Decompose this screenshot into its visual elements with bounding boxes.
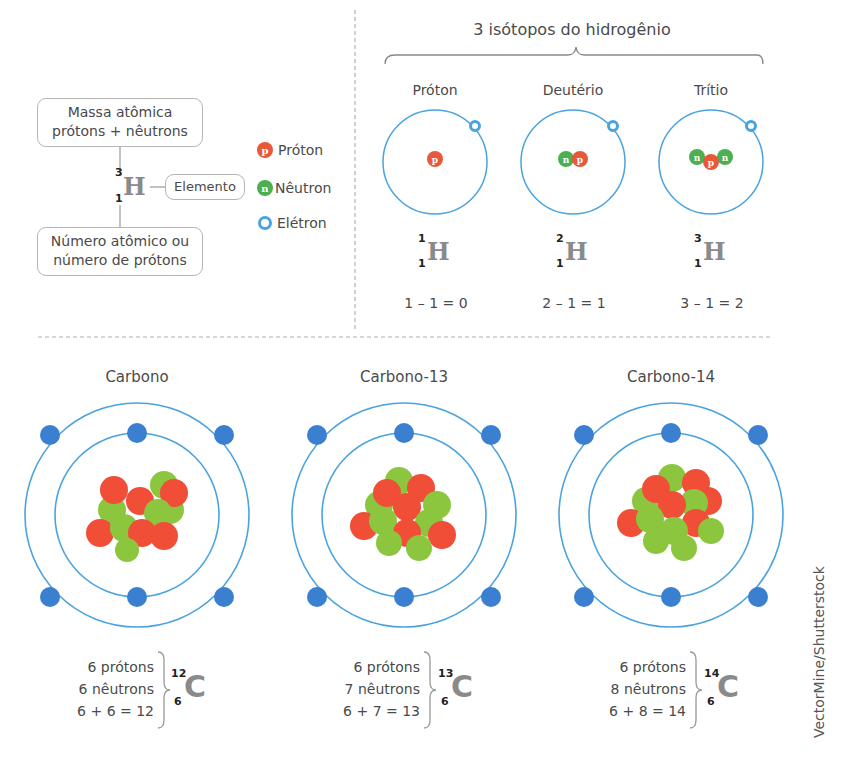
isotope-name: Carbono-14 xyxy=(627,368,715,386)
mass-number-box: Massa atômica prótons + nêutrons xyxy=(37,98,203,147)
isotope-name: Carbono xyxy=(105,368,168,386)
legend-neutron: n Nêutron xyxy=(257,180,331,196)
neutron-equation: 1 – 1 = 0 xyxy=(404,295,467,311)
carbon-atom-diagram xyxy=(279,393,529,643)
summary-brace xyxy=(154,650,174,730)
atomic-number: 6 xyxy=(707,695,715,708)
legend-neutron-label: Nêutron xyxy=(275,180,331,196)
neutron-count: 8 nêutrons xyxy=(597,678,686,700)
summary-brace xyxy=(420,650,440,730)
neutron-equation: 2 – 1 = 1 xyxy=(542,295,605,311)
nucleon-summary: 6 prótons 8 nêutrons 6 + 8 = 14 xyxy=(597,656,686,722)
summary-brace xyxy=(686,650,706,730)
hydrogen-title: 3 isótopos do hidrogênio xyxy=(473,20,670,39)
isotope-name: Próton xyxy=(412,82,457,98)
example-atomic-number: 1 xyxy=(115,192,123,205)
mass-box-line2: prótons + nêutrons xyxy=(38,122,202,141)
element-symbol: C xyxy=(451,669,473,704)
svg-text:n: n xyxy=(722,153,729,163)
hydrogen-atom-diagram: p xyxy=(380,107,495,217)
hydrogen-atom-diagram: n p xyxy=(518,107,633,217)
atomic-number: 6 xyxy=(441,695,449,708)
element-symbol: H xyxy=(703,237,726,266)
atomic-number: 1 xyxy=(418,257,426,270)
neutron-equation: 3 – 1 = 2 xyxy=(680,295,743,311)
mass-sum: 6 + 7 = 13 xyxy=(330,700,420,722)
svg-text:n: n xyxy=(694,153,701,163)
isotopes-brace xyxy=(385,47,763,64)
legend-electron-label: Elétron xyxy=(277,215,327,231)
image-credit: VectorMine/Shutterstock xyxy=(811,566,827,738)
carbon-atom-diagram xyxy=(12,393,262,643)
atomic-number: 6 xyxy=(174,695,182,708)
mass-number: 3 xyxy=(694,232,702,245)
svg-text:n: n xyxy=(563,155,570,165)
electron-icon xyxy=(258,216,272,230)
mass-number: 2 xyxy=(556,232,564,245)
mass-box-line1: Massa atômica xyxy=(38,103,202,122)
neutron-count: 7 nêutrons xyxy=(330,678,420,700)
example-symbol: H xyxy=(123,172,146,201)
neutron-count: 6 nêutrons xyxy=(62,678,154,700)
atomic-number: 1 xyxy=(694,257,702,270)
proton-count: 6 prótons xyxy=(62,656,154,678)
electron-icon xyxy=(471,122,480,131)
element-symbol: C xyxy=(184,669,206,704)
example-mass-number: 3 xyxy=(115,166,123,179)
nucleon-summary: 6 prótons 6 nêutrons 6 + 6 = 12 xyxy=(62,656,154,722)
element-symbol: H xyxy=(427,237,450,266)
nucleon-summary: 6 prótons 7 nêutrons 6 + 7 = 13 xyxy=(330,656,420,722)
neutron-icon: n xyxy=(257,180,273,196)
mass-number: 1 xyxy=(418,232,426,245)
svg-text:p: p xyxy=(577,155,583,165)
atomic-box-line2: número de prótons xyxy=(38,251,202,270)
isotope-name: Carbono-13 xyxy=(360,368,448,386)
atomic-box-line1: Número atômico ou xyxy=(38,232,202,251)
legend-proton: p Próton xyxy=(257,142,323,158)
atomic-number: 1 xyxy=(556,257,564,270)
isotope-name: Deutério xyxy=(543,82,604,98)
proton-icon: p xyxy=(257,142,273,158)
mass-sum: 6 + 8 = 14 xyxy=(597,700,686,722)
svg-text:p: p xyxy=(708,158,714,168)
carbon-atom-diagram xyxy=(546,393,796,643)
element-symbol: C xyxy=(717,669,739,704)
proton-count: 6 prótons xyxy=(330,656,420,678)
legend-proton-label: Próton xyxy=(278,142,323,158)
mass-sum: 6 + 6 = 12 xyxy=(62,700,154,722)
legend-electron: Elétron xyxy=(258,215,327,231)
svg-text:p: p xyxy=(432,155,438,165)
element-box: Elemento xyxy=(165,174,245,200)
isotope-name: Trítio xyxy=(694,82,728,98)
atomic-number-box: Número atômico ou número de prótons xyxy=(37,227,203,276)
proton-count: 6 prótons xyxy=(597,656,686,678)
hydrogen-atom-diagram: n n p xyxy=(656,107,771,217)
element-symbol: H xyxy=(565,237,588,266)
